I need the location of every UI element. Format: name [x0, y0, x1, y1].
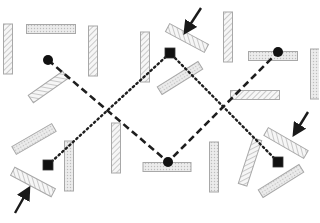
square-marker-icon [273, 157, 283, 167]
circle-marker-icon [163, 157, 173, 167]
circle-marker-icon [43, 55, 53, 65]
hatched-bar [249, 52, 298, 61]
square-marker-icon [43, 160, 53, 170]
hatched-bar [89, 26, 98, 76]
hatched-bar [210, 142, 219, 192]
diagram-canvas [0, 0, 319, 223]
hatched-bar [27, 25, 76, 34]
hatched-bar [112, 123, 121, 173]
hatched-bar [224, 12, 233, 62]
circle-marker-icon [273, 47, 283, 57]
hatched-bar [4, 24, 13, 74]
hatched-bar [311, 49, 320, 99]
diagram-stage [0, 0, 319, 223]
square-marker-icon [165, 48, 175, 58]
